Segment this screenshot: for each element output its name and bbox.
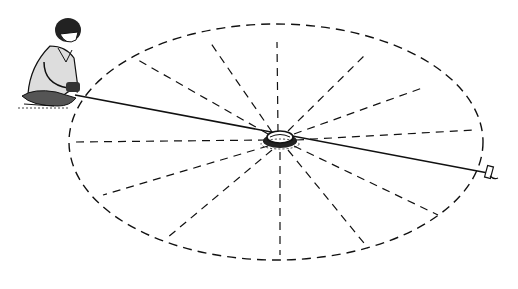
end-stake-icon [485, 165, 498, 178]
kneeling-person-icon [18, 18, 81, 108]
circle-marking-diagram [0, 0, 518, 289]
